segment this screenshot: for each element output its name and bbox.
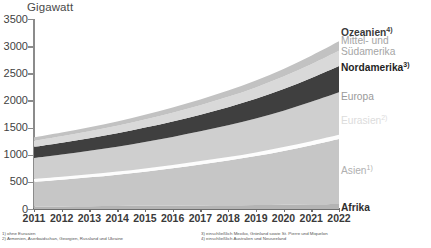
- y-tick-label: 3000: [0, 41, 28, 52]
- legend-label-mittel-suedamerika-1: Mittel- und: [341, 35, 389, 46]
- legend-item-nordamerika: Nordamerika3): [341, 60, 410, 74]
- legend-sup-nordamerika: 3): [403, 61, 409, 68]
- y-tick-mark: [28, 46, 34, 47]
- stacked-area-chart: Gigawatt 3500300025002000150010005000 20…: [0, 0, 431, 248]
- x-tick-label: 2016: [158, 212, 188, 224]
- x-tick-label: 2020: [269, 212, 299, 224]
- y-tick-label: 2000: [0, 95, 28, 106]
- legend-label-europa: Europa: [341, 91, 374, 102]
- legend-item-asien: Asien1): [341, 163, 373, 177]
- y-tick-label: 3500: [0, 14, 28, 25]
- legend-item-afrika: Afrika: [341, 203, 370, 214]
- y-tick-mark: [28, 155, 34, 156]
- footnote-4: 4) einschließlich Australien und Neuseel…: [201, 236, 429, 241]
- legend-item-europa: Europa: [341, 92, 374, 103]
- legend-label-afrika: Afrika: [341, 202, 370, 213]
- x-tick-label: 2019: [241, 212, 271, 224]
- legend-item-mittel-suedamerika-line1: Mittel- und: [341, 36, 389, 47]
- area-series-svg: [34, 19, 339, 209]
- chart-legend: Ozeanien4) Mittel- und Südamerika Nordam…: [341, 0, 431, 248]
- y-tick-label: 2500: [0, 68, 28, 79]
- y-tick-mark: [28, 73, 34, 74]
- x-tick-label: 2013: [74, 212, 104, 224]
- footnote-2: 2) Armenien, Aserbaidschan, Georgien, Ru…: [2, 236, 197, 241]
- y-tick-label: 1500: [0, 122, 28, 133]
- legend-label-nordamerika: Nordamerika: [341, 62, 403, 73]
- x-tick-label: 2012: [47, 212, 77, 224]
- legend-sup-eurasien: 2): [381, 114, 387, 121]
- legend-label-asien: Asien: [341, 165, 366, 176]
- y-tick-mark: [28, 128, 34, 129]
- plot-area: [34, 19, 339, 209]
- legend-label-eurasien: Eurasien: [341, 115, 381, 126]
- chart-axis-title: Gigawatt: [27, 1, 73, 13]
- x-tick-label: 2021: [296, 212, 326, 224]
- y-tick-mark: [28, 209, 34, 210]
- footnotes-right-column: 3) einschließlich Mexiko, Grönland sowie…: [201, 231, 429, 241]
- y-tick-label: 1000: [0, 149, 28, 160]
- x-tick-label: 2011: [19, 212, 49, 224]
- x-tick-label: 2017: [185, 212, 215, 224]
- legend-sup-asien: 1): [366, 164, 372, 171]
- y-tick-label: 500: [0, 176, 28, 187]
- footnotes-left-column: 1) ohne Eurasien 2) Armenien, Aserbaidsc…: [2, 231, 197, 241]
- x-tick-label: 2015: [130, 212, 160, 224]
- y-tick-mark: [28, 19, 34, 20]
- y-tick-mark: [28, 182, 34, 183]
- x-tick-label: 2014: [102, 212, 132, 224]
- x-tick-label: 2018: [213, 212, 243, 224]
- legend-sup-ozeanien: 4): [386, 26, 392, 33]
- footnotes: 1) ohne Eurasien 2) Armenien, Aserbaidsc…: [0, 231, 431, 248]
- legend-label-mittel-suedamerika-2: Südamerika: [341, 46, 395, 57]
- legend-item-eurasien: Eurasien2): [341, 113, 387, 127]
- y-tick-mark: [28, 100, 34, 101]
- legend-item-mittel-suedamerika-line2: Südamerika: [341, 47, 395, 58]
